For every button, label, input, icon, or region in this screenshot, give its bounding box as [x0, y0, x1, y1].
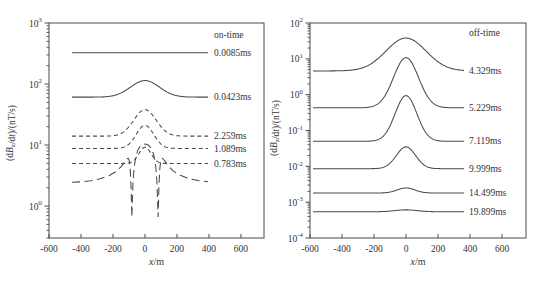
series-curve-14.499ms [313, 188, 464, 193]
y-tick-label: 100 [290, 88, 304, 100]
y-tick-label: 103 [29, 16, 43, 28]
y-tick-label: 101 [290, 52, 303, 64]
dbdt-profile-charts: 103102101100-600-400-2000200400600x/m(dB… [0, 0, 542, 287]
y-axis-label: (dBz/dt)/(nT/s) [269, 100, 282, 156]
x-tick-label: -400 [333, 244, 351, 254]
x-tick-label: 0 [404, 244, 409, 254]
series-label: 19.899ms [469, 207, 507, 217]
plot-frame [310, 23, 526, 238]
x-tick-label: 400 [202, 244, 217, 254]
y-tick-label: 102 [29, 77, 43, 89]
x-tick-label: 600 [495, 244, 510, 254]
series-curve-1.089ms [72, 125, 208, 148]
curves [72, 53, 208, 217]
x-tick-label: -600 [40, 244, 58, 254]
series-label: 7.119ms [469, 136, 501, 146]
series-label: 9.999ms [469, 164, 502, 174]
x-axis: -600-400-2000200400600 [301, 234, 509, 254]
series-label: 4.329ms [469, 66, 502, 76]
x-tick-label: -600 [301, 244, 319, 254]
series-curve-2.259ms [72, 110, 208, 136]
series-curve-4.329ms [313, 38, 464, 71]
series-label: 14.499ms [469, 188, 507, 198]
panel-right: 10210110010-110-210-310-4-600-400-200020… [269, 16, 526, 267]
series-label: 0.0423ms [214, 92, 252, 102]
series-label: 1.089ms [214, 144, 247, 154]
dbdt-profile-figure: 103102101100-600-400-2000200400600x/m(dB… [0, 0, 542, 287]
series-label: 3.879ms [214, 0, 247, 2]
series-label: 0.783ms [214, 159, 247, 169]
x-axis-label: x/m [409, 256, 425, 267]
x-tick-label: -200 [104, 244, 122, 254]
y-tick-label: 100 [29, 199, 43, 211]
y-tick-label: 10-2 [288, 160, 304, 172]
series-curve-7.119ms [313, 96, 464, 142]
y-axis-label: (dBz/dt)/(nT/s) [5, 105, 18, 161]
y-tick-label: 10-3 [288, 195, 304, 207]
series-curve-19.899ms [313, 210, 464, 212]
y-tick-label: 10-1 [288, 124, 303, 136]
x-axis-label: x/m [148, 256, 164, 267]
x-tick-label: 200 [170, 244, 185, 254]
y-axis: 103102101100 [29, 16, 49, 238]
y-tick-label: 102 [290, 16, 304, 28]
x-tick-label: 0 [143, 244, 148, 254]
series-label: 2.259ms [214, 131, 247, 141]
x-tick-label: -400 [72, 244, 90, 254]
series-curve-9.999ms [313, 147, 464, 169]
series-curve-0.783ms [72, 147, 208, 163]
x-axis: -600-400-2000200400600 [40, 234, 248, 254]
panel-title: off-time [469, 28, 500, 38]
series-curve-5.229ms [313, 58, 464, 108]
panel-left: 103102101100-600-400-2000200400600x/m(dB… [5, 0, 264, 267]
series-label: 5.229ms [469, 103, 502, 113]
series-curve-0.0423ms [72, 81, 208, 98]
x-tick-label: 400 [463, 244, 478, 254]
y-tick-label: 101 [29, 138, 42, 150]
series-curve-3.879ms [72, 144, 208, 217]
x-tick-label: 200 [431, 244, 446, 254]
x-tick-label: -200 [365, 244, 383, 254]
panel-title: on-time [214, 30, 244, 40]
x-tick-label: 600 [234, 244, 249, 254]
series-label: 0.0085ms [214, 48, 252, 58]
y-tick-label: 10-4 [288, 231, 304, 243]
y-axis: 10210110010-110-210-310-4 [288, 16, 310, 243]
curves [313, 38, 464, 212]
